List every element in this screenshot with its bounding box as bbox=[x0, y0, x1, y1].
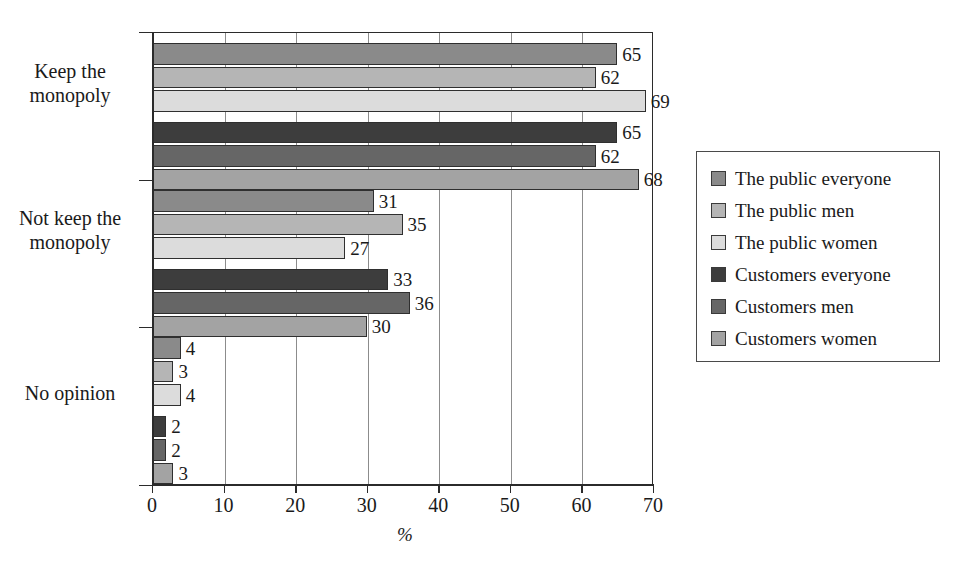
bar bbox=[152, 463, 173, 485]
x-tick-label: 40 bbox=[428, 495, 448, 515]
legend-label: Customers women bbox=[735, 329, 877, 348]
legend-item[interactable]: The public everyone bbox=[711, 166, 891, 190]
bar-value-label: 4 bbox=[186, 386, 196, 405]
legend-label: The public everyone bbox=[735, 169, 891, 188]
bar-value-label: 2 bbox=[171, 441, 181, 460]
legend-item[interactable]: Customers women bbox=[711, 326, 877, 350]
category-label: Not keep themonopoly bbox=[0, 207, 140, 254]
bar-value-label: 33 bbox=[393, 270, 412, 289]
bar-value-label: 62 bbox=[601, 68, 620, 87]
bar bbox=[152, 67, 596, 89]
x-tick-label: 70 bbox=[643, 495, 663, 515]
legend-swatch-icon bbox=[711, 267, 726, 282]
x-tick-label: 0 bbox=[147, 495, 157, 515]
bar bbox=[152, 90, 646, 112]
legend-swatch-icon bbox=[711, 331, 726, 346]
x-tick bbox=[438, 485, 439, 493]
y-tick bbox=[139, 485, 152, 486]
legend-swatch-icon bbox=[711, 203, 726, 218]
x-tick bbox=[510, 485, 511, 493]
legend-label: The public men bbox=[735, 201, 854, 220]
x-tick bbox=[653, 485, 654, 493]
bar-value-label: 65 bbox=[622, 123, 641, 142]
x-tick bbox=[152, 485, 153, 493]
bar-value-label: 31 bbox=[379, 192, 398, 211]
legend-label: Customers everyone bbox=[735, 265, 891, 284]
x-tick-label: 50 bbox=[500, 495, 520, 515]
bar bbox=[152, 361, 173, 383]
bar bbox=[152, 292, 410, 314]
bar bbox=[152, 416, 166, 438]
bar bbox=[152, 384, 181, 406]
x-tick bbox=[224, 485, 225, 493]
bar bbox=[152, 122, 617, 144]
x-tick bbox=[581, 485, 582, 493]
bar bbox=[152, 190, 374, 212]
bar bbox=[152, 439, 166, 461]
bar-chart: 656269656268313527333630434223 010203040… bbox=[0, 0, 963, 566]
x-tick bbox=[295, 485, 296, 493]
bar-value-label: 2 bbox=[171, 417, 181, 436]
bar-value-label: 4 bbox=[186, 339, 196, 358]
legend-swatch-icon bbox=[711, 171, 726, 186]
bar-value-label: 3 bbox=[178, 464, 188, 483]
x-tick-label: 30 bbox=[357, 495, 377, 515]
bar bbox=[152, 43, 617, 65]
bar bbox=[152, 337, 181, 359]
bar-value-label: 68 bbox=[644, 170, 663, 189]
legend-label: The public women bbox=[735, 233, 877, 252]
x-tick-label: 10 bbox=[214, 495, 234, 515]
bar-value-label: 3 bbox=[178, 362, 188, 381]
x-axis-line bbox=[152, 484, 654, 486]
x-tick-label: 20 bbox=[285, 495, 305, 515]
legend-swatch-icon bbox=[711, 235, 726, 250]
legend: The public everyoneThe public menThe pub… bbox=[696, 151, 940, 362]
x-axis-title: % bbox=[0, 524, 810, 546]
y-axis-line bbox=[152, 32, 154, 485]
category-label: No opinion bbox=[0, 382, 140, 406]
bar bbox=[152, 269, 388, 291]
y-tick bbox=[139, 327, 152, 328]
legend-label: Customers men bbox=[735, 297, 854, 316]
bar-value-label: 65 bbox=[622, 45, 641, 64]
y-tick bbox=[139, 180, 152, 181]
bar bbox=[152, 169, 639, 191]
x-tick bbox=[367, 485, 368, 493]
legend-item[interactable]: The public women bbox=[711, 230, 877, 254]
legend-item[interactable]: Customers men bbox=[711, 294, 854, 318]
legend-item[interactable]: Customers everyone bbox=[711, 262, 891, 286]
bar-value-label: 35 bbox=[408, 215, 427, 234]
bar-value-label: 27 bbox=[350, 239, 369, 258]
legend-item[interactable]: The public men bbox=[711, 198, 854, 222]
legend-swatch-icon bbox=[711, 299, 726, 314]
bar bbox=[152, 214, 403, 236]
bar bbox=[152, 145, 596, 167]
bars-layer: 656269656268313527333630434223 bbox=[152, 32, 653, 485]
bar-value-label: 30 bbox=[372, 317, 391, 336]
bar-value-label: 62 bbox=[601, 147, 620, 166]
bar bbox=[152, 316, 367, 338]
bar bbox=[152, 237, 345, 259]
category-label: Keep themonopoly bbox=[0, 60, 140, 107]
bar-value-label: 36 bbox=[415, 294, 434, 313]
x-tick-label: 60 bbox=[571, 495, 591, 515]
bar-value-label: 69 bbox=[651, 92, 670, 111]
y-tick bbox=[139, 32, 152, 33]
